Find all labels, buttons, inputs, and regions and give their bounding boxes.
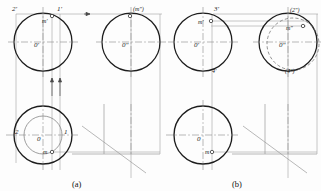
label-4-double-prime-b: (4") xyxy=(285,68,295,75)
arrow-up-1-a xyxy=(58,78,61,96)
panel-a-projection-axes xyxy=(72,104,160,173)
axis-45-b xyxy=(243,126,307,173)
panel-b-center-lines xyxy=(166,7,321,170)
label-2-a: 2 xyxy=(15,128,19,136)
axis-45-a xyxy=(82,126,146,173)
label-0-prime-a: 0' xyxy=(34,41,40,49)
label-m-a: m xyxy=(43,149,48,155)
label-0-double-prime-b: 0" xyxy=(279,41,286,49)
label-0-b: 0 xyxy=(197,135,201,143)
panel-b-construction-lines xyxy=(211,14,318,178)
panel-b-group: 3' m' 0' 4' (2") m" 0" (4") 0 m xyxy=(166,5,321,178)
arrow-right-a xyxy=(84,12,90,15)
panel-b-point-markers xyxy=(209,19,304,153)
panel-a-group: 2' 1' m' 0' (m") 0" 2 1 0 m xyxy=(6,5,166,178)
panel-a-arrows xyxy=(50,12,90,96)
point-marker-m-top-a xyxy=(50,150,53,153)
label-m-double-prime-b: m" xyxy=(286,25,293,31)
label-m-b: m xyxy=(205,149,210,155)
point-marker-m-front-b xyxy=(209,19,212,22)
label-2-double-prime-b: (2") xyxy=(290,7,300,14)
point-marker-m-front-a xyxy=(50,14,53,17)
label-0-a: 0 xyxy=(37,135,41,143)
label-3-prime-b: 3' xyxy=(213,5,220,13)
label-m-double-prime-a: (m") xyxy=(133,6,144,13)
label-0-prime-b: 0' xyxy=(194,41,200,49)
technical-drawing-canvas: 2' 1' m' 0' (m") 0" 2 1 0 m xyxy=(0,0,321,191)
drawing-sheet: 2' 1' m' 0' (m") 0" 2 1 0 m xyxy=(0,0,321,191)
label-2-prime-a: 2' xyxy=(12,5,18,13)
label-1-prime-a: 1' xyxy=(57,5,63,13)
label-m-prime-b: m' xyxy=(198,19,204,25)
label-0-double-prime-a: 0" xyxy=(122,41,129,49)
label-4-prime-b: 4' xyxy=(212,68,217,74)
label-1-a: 1 xyxy=(64,128,68,136)
point-marker-m-top-b xyxy=(210,150,213,153)
point-marker-m-side-b xyxy=(301,24,304,27)
arrow-up-m-a xyxy=(50,78,53,96)
panel-b-projection-axes xyxy=(232,104,317,173)
label-m-prime-a: m' xyxy=(42,18,48,24)
point-marker-m-side-a xyxy=(128,14,131,17)
caption-b: (b) xyxy=(232,179,242,189)
caption-a: (a) xyxy=(72,179,82,189)
panel-a-center-lines xyxy=(6,7,166,170)
